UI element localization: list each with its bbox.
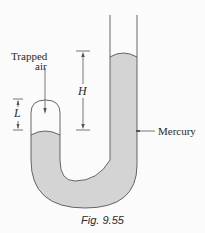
mercury-label: Mercury [158, 126, 196, 137]
u-tube-diagram [0, 0, 205, 233]
figure-caption: Fig. 9.55 [0, 214, 205, 226]
trapped-air-label-line2: air [35, 61, 47, 72]
mercury-column [31, 53, 137, 208]
height-label: H [78, 86, 87, 97]
length-label: L [14, 108, 21, 119]
trapped-air-pointer [43, 68, 46, 114]
mercury-pointer [136, 130, 155, 132]
u-tube-manometer-figure: Trapped air H L Mercury Fig. 9.55 [0, 0, 205, 233]
